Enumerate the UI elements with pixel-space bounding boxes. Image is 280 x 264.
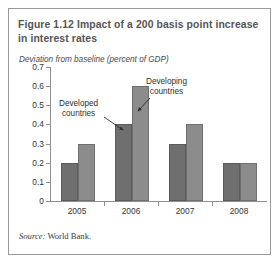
y-axis-tick-label: 0.1	[19, 178, 44, 186]
bar-developing-2007	[186, 124, 203, 201]
y-axis-tick	[46, 124, 50, 125]
x-axis-label-2008: 2008	[219, 207, 259, 215]
chart-plot-area: 00.10.20.30.40.50.60.7 2005200620072008 …	[19, 65, 267, 215]
x-axis-label-2007: 2007	[165, 207, 205, 215]
annotation-developed-countries: Developed countries	[59, 99, 98, 119]
x-axis-tick	[212, 202, 213, 206]
y-axis-tick-label: 0.3	[19, 140, 44, 148]
annotation-developing-countries: Developing countries	[146, 77, 187, 97]
y-axis-tick	[46, 86, 50, 87]
y-axis-tick-label: 0.2	[19, 159, 44, 167]
y-axis-tick	[46, 67, 50, 68]
source-line: Source: World Bank.	[19, 231, 91, 241]
source-value: World Bank.	[45, 231, 91, 241]
bar-developed-2007	[169, 144, 186, 201]
y-axis-tick-label: 0.5	[19, 101, 44, 109]
bar-developing-2006	[132, 86, 149, 201]
figure-container: Figure 1.12 Impact of a 200 basis point …	[8, 8, 271, 255]
y-axis-tick	[46, 105, 50, 106]
y-axis-tick	[46, 201, 50, 202]
annotation-developing-line2: countries	[146, 87, 187, 97]
y-axis-tick-label: 0	[19, 197, 44, 205]
y-axis-tick	[46, 163, 50, 164]
annotation-developing-line1: Developing	[146, 77, 187, 87]
bar-developed-2008	[223, 163, 240, 201]
bar-developed-2005	[61, 163, 78, 201]
x-axis-label-2005: 2005	[57, 207, 97, 215]
y-axis-tick-label: 0.7	[19, 63, 44, 71]
annotation-developed-line2: countries	[59, 109, 98, 119]
annotation-developed-line1: Developed	[59, 99, 98, 109]
bar-developing-2008	[240, 163, 257, 201]
y-axis-tick-label: 0.4	[19, 120, 44, 128]
y-axis-tick	[46, 182, 50, 183]
x-axis-label-2006: 2006	[111, 207, 151, 215]
source-label: Source:	[19, 231, 45, 241]
bar-developed-2006	[115, 124, 132, 201]
y-axis-tick-label: 0.6	[19, 82, 44, 90]
x-axis-tick	[104, 202, 105, 206]
x-axis-tick	[158, 202, 159, 206]
bar-developing-2005	[78, 144, 95, 201]
figure-title: Figure 1.12 Impact of a 200 basis point …	[18, 18, 264, 46]
y-axis-tick	[46, 144, 50, 145]
